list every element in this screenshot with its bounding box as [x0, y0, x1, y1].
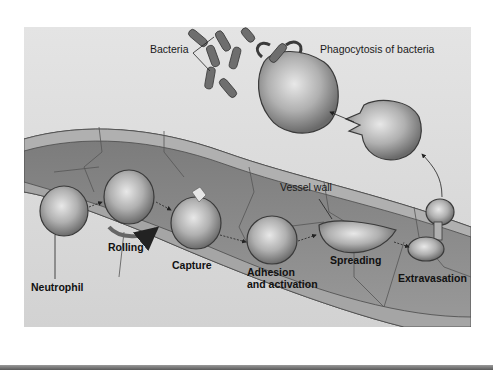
label-extravasation: Extravasation — [398, 273, 467, 285]
label-capture: Capture — [172, 260, 212, 272]
neutrophil-cell-adhesion — [247, 216, 297, 264]
bottom-edge-bar — [0, 365, 493, 370]
label-vessel-wall: Vessel wall — [280, 182, 332, 194]
neutrophil-extravasation-figure: Bacteria Phagocytosis of bacteria Vessel… — [24, 27, 471, 327]
neutrophil-cell-capture — [171, 197, 221, 249]
label-neutrophil: Neutrophil — [31, 282, 84, 294]
label-phagocytosis: Phagocytosis of bacteria — [320, 44, 434, 56]
label-adhesion-line2: and activation — [247, 279, 318, 291]
neutrophil-cell-1 — [40, 186, 88, 236]
neutrophil-cell-rolling — [104, 170, 154, 224]
label-bacteria: Bacteria — [150, 44, 189, 56]
label-adhesion-line1: Adhesion — [247, 267, 295, 279]
label-spreading: Spreading — [330, 255, 381, 267]
label-rolling: Rolling — [108, 242, 144, 254]
